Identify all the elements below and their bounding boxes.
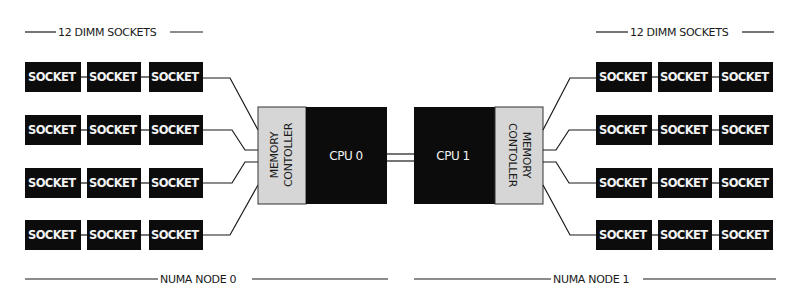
svg-text:SOCKET: SOCKET <box>89 228 137 242</box>
svg-text:SOCKET: SOCKET <box>151 176 199 190</box>
svg-text:SOCKET: SOCKET <box>151 228 199 242</box>
socket: SOCKET <box>596 168 652 198</box>
svg-text:SOCKET: SOCKET <box>28 123 76 137</box>
svg-text:SOCKET: SOCKET <box>151 123 199 137</box>
socket: SOCKET <box>149 115 203 145</box>
svg-text:SOCKET: SOCKET <box>721 70 769 84</box>
socket: SOCKET <box>87 168 141 198</box>
socket: SOCKET <box>658 168 712 198</box>
socket: SOCKET <box>149 168 203 198</box>
socket: SOCKET <box>596 62 652 92</box>
node0-sockets: SOCKET SOCKET SOCKET SOCKET SOCKET SOCKE… <box>25 62 203 250</box>
svg-text:SOCKET: SOCKET <box>28 70 76 84</box>
svg-text:SOCKET: SOCKET <box>721 228 769 242</box>
mc-label-line2: CONTOLLER <box>282 122 295 187</box>
socket: SOCKET <box>658 62 712 92</box>
numa-node-1-label: NUMA NODE 1 <box>553 273 629 286</box>
svg-text:SOCKET: SOCKET <box>599 123 647 137</box>
mc-label-line1: MEMORY <box>268 131 281 178</box>
numa-diagram: 12 DIMM SOCKETS 12 DIMM SOCKETS SOCKET S… <box>0 0 793 304</box>
cpu-interconnect <box>387 154 414 161</box>
socket: SOCKET <box>596 220 652 250</box>
mc-label-line2: CONTOLLER <box>506 123 519 188</box>
socket: SOCKET <box>25 220 81 250</box>
socket: SOCKET <box>719 168 773 198</box>
mc-label-line1: MEMORY <box>520 132 533 179</box>
node1-channel-wires <box>543 78 596 235</box>
svg-text:SOCKET: SOCKET <box>599 228 647 242</box>
socket: SOCKET <box>25 62 81 92</box>
socket: SOCKET <box>658 115 712 145</box>
right-header-label: 12 DIMM SOCKETS <box>630 26 729 39</box>
socket: SOCKET <box>658 220 712 250</box>
svg-text:SOCKET: SOCKET <box>660 70 708 84</box>
svg-text:SOCKET: SOCKET <box>660 228 708 242</box>
left-header-label: 12 DIMM SOCKETS <box>58 26 157 39</box>
socket: SOCKET <box>87 62 141 92</box>
socket: SOCKET <box>25 168 81 198</box>
socket: SOCKET <box>25 115 81 145</box>
socket: SOCKET <box>149 62 203 92</box>
socket: SOCKET <box>719 62 773 92</box>
svg-text:SOCKET: SOCKET <box>89 176 137 190</box>
svg-text:SOCKET: SOCKET <box>151 70 199 84</box>
svg-text:SOCKET: SOCKET <box>599 176 647 190</box>
cpu-1-label: CPU 1 <box>436 149 469 163</box>
svg-text:SOCKET: SOCKET <box>721 176 769 190</box>
socket: SOCKET <box>87 115 141 145</box>
node1-sockets: SOCKET SOCKET SOCKET SOCKET SOCKET SOCKE… <box>596 62 773 250</box>
socket: SOCKET <box>149 220 203 250</box>
socket: SOCKET <box>596 115 652 145</box>
node0-channel-wires <box>203 78 258 235</box>
numa-node-1-footer: NUMA NODE 1 <box>414 273 776 286</box>
socket: SOCKET <box>719 115 773 145</box>
socket: SOCKET <box>87 220 141 250</box>
svg-text:SOCKET: SOCKET <box>721 123 769 137</box>
node1-processor: CPU 1 MEMORY CONTOLLER <box>414 107 543 204</box>
node0-processor: MEMORY CONTOLLER CPU 0 <box>258 107 387 204</box>
socket: SOCKET <box>719 220 773 250</box>
numa-node-0-label: NUMA NODE 0 <box>160 273 237 286</box>
cpu-0-label: CPU 0 <box>329 149 362 163</box>
svg-text:SOCKET: SOCKET <box>89 123 137 137</box>
svg-text:SOCKET: SOCKET <box>28 176 76 190</box>
svg-text:SOCKET: SOCKET <box>660 123 708 137</box>
left-dimm-header: 12 DIMM SOCKETS <box>25 26 203 39</box>
svg-text:SOCKET: SOCKET <box>660 176 708 190</box>
svg-text:SOCKET: SOCKET <box>599 70 647 84</box>
svg-text:SOCKET: SOCKET <box>89 70 137 84</box>
numa-node-0-footer: NUMA NODE 0 <box>25 273 388 286</box>
right-dimm-header: 12 DIMM SOCKETS <box>596 26 774 39</box>
svg-text:SOCKET: SOCKET <box>28 228 76 242</box>
